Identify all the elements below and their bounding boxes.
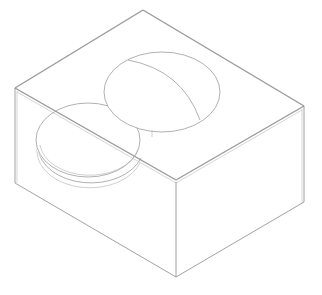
isometric-block-drawing bbox=[0, 0, 322, 295]
dome-fill bbox=[104, 52, 220, 132]
drawing-canvas bbox=[0, 0, 322, 295]
